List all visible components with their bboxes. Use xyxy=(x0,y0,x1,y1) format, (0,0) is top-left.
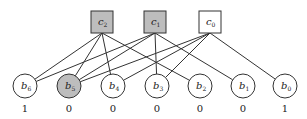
bit-value: 0 xyxy=(110,103,116,114)
bit-node-b1: b10 xyxy=(231,74,255,114)
edge-c1-b5 xyxy=(79,33,155,80)
bit-value: 0 xyxy=(66,103,72,114)
bit-value: 1 xyxy=(282,103,288,114)
check-node-c1: c1 xyxy=(144,11,166,33)
bit-node-b2: b20 xyxy=(188,74,212,114)
bit-node-b4: b40 xyxy=(101,74,125,114)
bit-value: 0 xyxy=(154,103,160,114)
bit-node-b3: b30 xyxy=(145,74,169,114)
bit-value: 0 xyxy=(240,103,246,114)
edge-c1-b6 xyxy=(36,33,155,81)
bit-node-b6: b61 xyxy=(13,74,37,114)
edge-c0-b5 xyxy=(80,33,210,82)
edge-c2-b5 xyxy=(75,33,102,76)
bit-node-b0: b01 xyxy=(273,74,297,114)
check-node-c0: c0 xyxy=(199,11,221,33)
bit-node-b5: b50 xyxy=(57,74,81,114)
bit-value: 1 xyxy=(22,103,28,114)
tanner-graph: c2c1c0b61b50b40b30b20b10b01 xyxy=(0,0,307,119)
check-node-c2: c2 xyxy=(91,11,113,33)
edge-c0-b3 xyxy=(165,33,210,78)
bit-value: 0 xyxy=(197,103,203,114)
